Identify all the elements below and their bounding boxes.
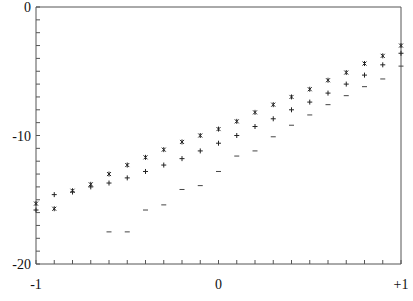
axes — [36, 7, 401, 264]
series-dash — [107, 66, 404, 232]
series-asterisk — [34, 43, 403, 211]
data-points — [34, 43, 404, 232]
x-tick-label: +1 — [394, 277, 409, 292]
x-tick-label: -1 — [30, 277, 42, 292]
y-tick-label: -20 — [12, 257, 31, 272]
tick-marks — [36, 7, 401, 264]
series-plus — [34, 51, 404, 213]
y-tick-label: -10 — [12, 129, 31, 144]
scatter-chart: -10+10-10-20 — [0, 0, 413, 301]
y-tick-label: 0 — [24, 0, 31, 15]
x-tick-label: 0 — [215, 277, 222, 292]
tick-labels: -10+10-10-20 — [12, 0, 408, 292]
